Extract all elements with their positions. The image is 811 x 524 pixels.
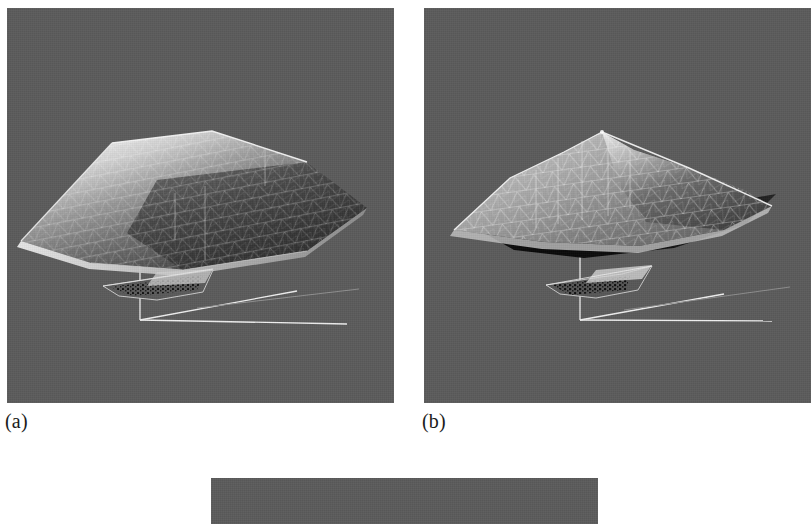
figure-panel-b (424, 8, 811, 403)
subfigure-caption-a: (a) (5, 411, 28, 431)
figure-panel-c-cropped (211, 478, 598, 524)
axis-guide-a (197, 289, 359, 308)
figure-panel-a (7, 8, 394, 403)
surface-plot-b (424, 8, 811, 403)
panel-c-grain (211, 478, 598, 524)
mesh-surface-b (424, 118, 811, 268)
surface-plot-a (7, 8, 394, 403)
base-plane-a (103, 269, 213, 300)
axis-guide-b (624, 287, 790, 310)
figure-root: (a) (0, 0, 811, 524)
base-plane-b (546, 265, 652, 298)
subfigure-caption-b: (b) (422, 411, 446, 431)
